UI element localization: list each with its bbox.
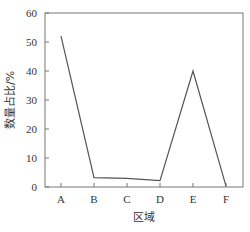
x-axis-ticks: ABCDEF (57, 183, 229, 205)
data-line (61, 36, 226, 186)
y-tick-label: 0 (32, 181, 38, 193)
y-tick-label: 10 (26, 152, 38, 164)
x-axis-title: 区域 (133, 211, 155, 224)
y-axis-title: 数量占比/% (3, 71, 17, 129)
y-tick-label: 50 (26, 36, 38, 48)
x-tick-label: C (123, 193, 130, 205)
y-axis-ticks: 0102030405060 (26, 7, 49, 193)
plot-frame (45, 13, 243, 187)
y-tick-label: 60 (26, 7, 38, 19)
x-tick-label: B (90, 193, 97, 205)
y-tick-label: 40 (26, 65, 38, 77)
y-tick-label: 20 (26, 123, 38, 135)
line-chart: 0102030405060 ABCDEF 区域 数量占比/% (0, 0, 250, 232)
x-tick-label: A (57, 193, 65, 205)
x-tick-label: D (156, 193, 164, 205)
y-tick-label: 30 (26, 94, 38, 106)
x-tick-label: F (223, 193, 229, 205)
x-tick-label: E (190, 193, 197, 205)
